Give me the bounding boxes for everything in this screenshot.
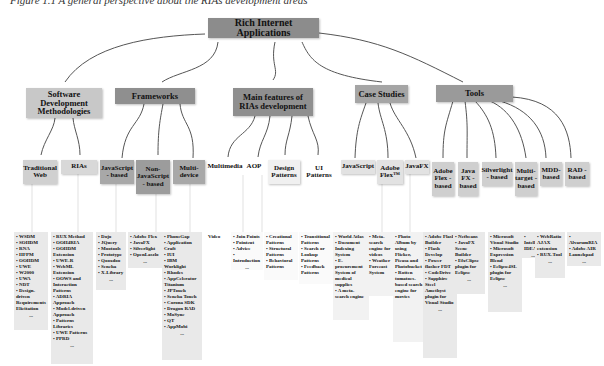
node-silverlight-based: Silverlight - based [482,162,512,186]
node-cs-javafx: JavaFX [405,160,429,174]
node-adobe-flex-based: Adobe Flex - based [432,162,454,196]
root-node: Rich Internet Applications [208,18,319,38]
category-case-studies: Case Studies [355,85,408,103]
node-multi-target-based: Multi-target - based [515,162,537,196]
list-design-patterns: Creational PatternsStructural PatternsBe… [264,232,298,280]
category-main-features: Main features of RIAs development [233,88,313,116]
node-non-javascript-based: Non-JavaScript - based [136,160,170,194]
list-ui-patterns: Transitional PatternsSearch or Lookup Pa… [299,232,333,284]
list-cs-javascript: World AtlasDocument Indexing SystemE-pro… [333,232,369,320]
list-cs-adobe-flex: Meta-search engine for videosWeather For… [367,232,395,296]
node-design-patterns: Design Patterns [268,160,300,184]
list-non-javascript-based: Adobe FlexJavaFXSilverlightOpenLaszlo ..… [128,232,162,268]
list-rias: RUX MethodOOH4RIAOOHDM ExtensionUWE-RWeb… [51,232,93,364]
node-aop: AOP [245,160,263,174]
list-javafx-based: NetbeansJavaFX Scene BuilderEfxClipse pl… [453,232,485,294]
category-tools: Tools [436,85,513,102]
list-adobe-flex-based: Adobe Flash BuilderFlash DevelopPower fl… [423,232,457,358]
node-rad-based: RAD - based [565,162,589,186]
list-multimedia: Video [206,232,230,246]
list-traditional-web: WSDMSOHDMRNAHFPMOOHDMUWEW2000UWANDTDesig… [14,232,48,330]
node-traditional-web: Traditional Web [23,160,57,184]
node-javascript-based: JavaScript - based [100,160,134,184]
node-multi-device: Multi-device [173,160,205,184]
list-mdd-based: WebRatio AJAX extensionRUX-Tool ... [535,232,565,278]
list-multi-device: PhoneGapApplication CraftIUIIBM Workligh… [162,232,202,360]
category-software-development-methodologies: Software Development Methodologies [26,88,102,118]
list-cs-javafx: Photo Album by using Flicker, Picasa and… [393,232,425,342]
node-rias: RIAs [61,160,97,174]
node-cs-adobe-flex: Adobe Flex™ [377,160,403,184]
list-javascript-based: DojoJQueryMootoolsPrototypeQooxdooSencha… [96,232,126,290]
node-mdd-based: MDD-based [540,162,562,186]
node-javafx-based: Java FX - based [458,162,478,196]
list-aop: Join PointsPointcutAdviceIntroduction ..… [231,232,263,270]
node-multimedia: Multimedia [208,160,242,174]
node-ui-patterns: UI Patterns [304,160,334,184]
node-cs-javascript: JavaScript [341,160,375,174]
root-label: Rich Internet Applications [208,18,319,39]
category-frameworks: Frameworks [115,88,195,104]
list-silverlight-based: Microsoft Visual StudioMicrosoft Express… [488,232,522,312]
list-rad-based: AlvarumRIAAdobe AIR Launchpad ... [567,232,601,266]
